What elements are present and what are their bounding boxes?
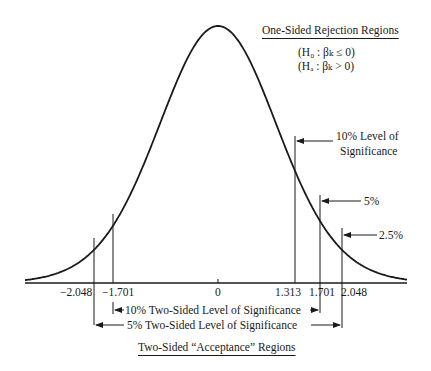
tick-label-neg-2048: −2.048 (60, 287, 92, 299)
five-pct-label: 5% (364, 196, 379, 208)
range-5pct-label: 5% Two-Sided Level of Significance (127, 320, 297, 332)
alt-hypothesis: (Hₐ : βₖ > 0) (298, 61, 354, 73)
two-sided-title: Two-Sided “Acceptance” Regions (138, 342, 296, 354)
tick-label-2048: 2.048 (341, 287, 367, 299)
tick-label-1701: 1.701 (309, 287, 335, 299)
two-half-pct-label: 2.5% (379, 230, 403, 242)
tick-label-1313: 1.313 (275, 287, 301, 299)
ten-pct-label-2: Significance (340, 146, 397, 158)
tick-label-neg-1701: −1.701 (102, 287, 134, 299)
one-sided-title: One-Sided Rejection Regions (262, 25, 399, 37)
tick-label-0: 0 (215, 287, 221, 299)
ten-pct-label-1: 10% Level of (336, 131, 399, 143)
range-10pct-label: 10% Two-Sided Level of Significance (125, 305, 301, 317)
null-hypothesis: (H₀ : βₖ ≤ 0) (298, 47, 355, 59)
